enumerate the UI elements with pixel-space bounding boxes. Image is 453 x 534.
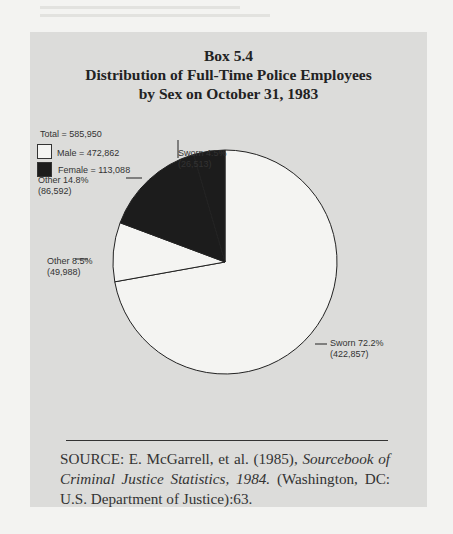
label-other-female: Other 14.8% (86,592) [38,175,89,196]
figure-box: Box 5.4 Distribution of Full-Time Police… [30,32,427,507]
legend-swatch-male [37,144,52,159]
source-divider [66,440,388,441]
pie-slices [113,150,337,374]
label-sworn-female: Sworn 4.5% (26,513) [178,148,227,169]
legend-male: Male = 472,862 [57,148,119,159]
label-other-male: Other 8.5% (49,988) [47,256,93,277]
label-sworn-male: Sworn 72.2% (422,857) [330,338,384,359]
background-text-bleed [40,6,240,9]
background-text-bleed [40,14,270,17]
legend-total: Total = 585,950 [40,129,102,140]
source-citation: SOURCE: E. McGarrell, et al. (1985), Sou… [60,449,390,509]
legend-female: Female = 113,088 [58,165,130,176]
